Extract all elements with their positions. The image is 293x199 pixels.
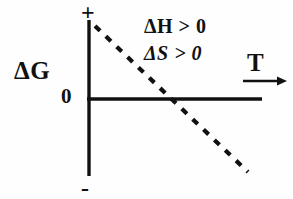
thermodynamics-plot-figure: ΔG 0 + - T ΔH > 0 ΔS > 0 <box>0 0 293 199</box>
positive-sign-label: + <box>81 0 95 24</box>
negative-sign-label: - <box>81 176 90 199</box>
entropy-condition-label: ΔS > 0 <box>144 43 202 63</box>
y-axis-label: ΔG <box>14 58 50 83</box>
arrow-right-icon <box>243 77 287 86</box>
origin-zero-label: 0 <box>61 86 72 107</box>
x-axis-label: T <box>247 50 264 75</box>
enthalpy-condition-label: ΔH > 0 <box>144 16 207 36</box>
